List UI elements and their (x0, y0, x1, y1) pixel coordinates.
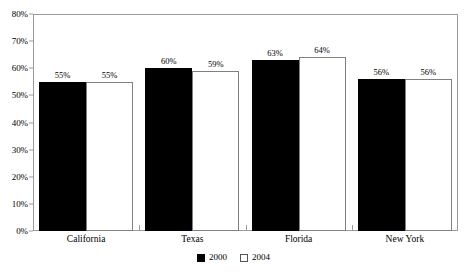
legend-item-2004: 2004 (240, 253, 270, 262)
y-axis-tick-label: 80% (12, 10, 28, 19)
y-axis-tick-label: 10% (12, 199, 28, 208)
legend-label: 2004 (252, 253, 270, 262)
bar-new-york-2000 (358, 79, 405, 231)
legend-swatch-open-icon (240, 254, 248, 262)
bar-chart: 0%10%20%30%40%50%60%70%80% 55%55%60%59%6… (0, 0, 467, 274)
y-axis-tick-label: 30% (12, 145, 28, 154)
bar-texas-2000 (145, 68, 192, 231)
x-axis-label-california: California (67, 233, 106, 245)
bar-value-label: 64% (299, 46, 346, 55)
legend-label: 2000 (209, 253, 227, 262)
legend-item-2000: 2000 (197, 253, 227, 262)
bar-value-label: 55% (39, 71, 86, 80)
bar-florida-2000 (252, 60, 299, 231)
x-axis-label-texas: Texas (181, 233, 203, 245)
x-axis-label-new-york: New York (386, 233, 425, 245)
bar-value-label: 59% (192, 60, 239, 69)
bar-california-2004 (86, 82, 133, 231)
bar-new-york-2004 (405, 79, 452, 231)
bar-florida-2004 (299, 57, 346, 231)
y-axis-tick-label: 20% (12, 172, 28, 181)
bar-value-label: 56% (358, 68, 405, 77)
bar-value-label: 60% (145, 57, 192, 66)
y-axis-tick-label: 50% (12, 91, 28, 100)
legend-swatch-filled-icon (197, 254, 205, 262)
bars-layer: 55%55%60%59%63%64%56%56% (33, 14, 458, 231)
y-axis-tick-label: 70% (12, 37, 28, 46)
bar-value-label: 63% (252, 49, 299, 58)
x-axis-label-florida: Florida (285, 233, 312, 245)
bar-value-label: 56% (405, 68, 452, 77)
bar-texas-2004 (192, 71, 239, 231)
x-axis-labels: CaliforniaTexasFloridaNew York (33, 233, 458, 247)
y-axis-tick-label: 40% (12, 118, 28, 127)
chart-legend: 20002004 (0, 253, 467, 262)
x-axis-group-separator (246, 225, 247, 231)
x-axis-group-separator (139, 225, 140, 231)
y-axis: 0%10%20%30%40%50%60%70%80% (0, 14, 31, 231)
bar-california-2000 (39, 82, 86, 231)
x-axis-group-separator (352, 225, 353, 231)
bar-value-label: 55% (86, 71, 133, 80)
y-axis-tick-label: 60% (12, 64, 28, 73)
y-axis-tick-label: 0% (16, 227, 28, 236)
